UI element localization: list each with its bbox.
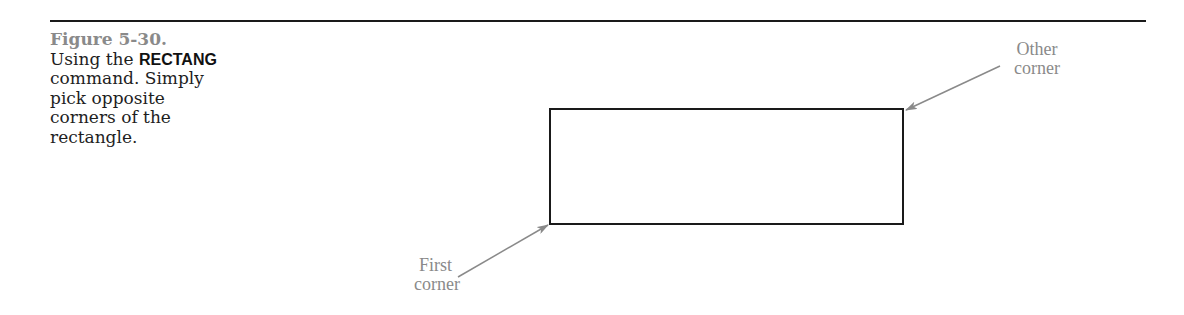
other-corner-arrow-icon	[906, 66, 1000, 110]
first-corner-label: First corner	[390, 256, 460, 294]
first-corner-arrow-icon	[458, 225, 548, 277]
rectangle-shape	[550, 109, 903, 224]
other-corner-label-line1: Other	[1000, 40, 1074, 59]
other-corner-label-line2: corner	[1000, 59, 1074, 78]
first-corner-label-line2: corner	[390, 275, 460, 294]
other-corner-label: Other corner	[1000, 40, 1074, 78]
first-corner-label-line1: First	[390, 256, 460, 275]
